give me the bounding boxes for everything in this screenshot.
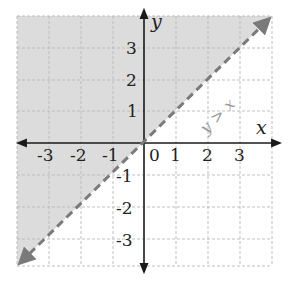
y-axis-label: y: [151, 12, 162, 31]
y-tick-3: 3: [126, 40, 137, 57]
y-tick-2: 2: [126, 72, 137, 89]
x-tick-neg1: -1: [102, 147, 119, 164]
y-tick-neg2: -2: [116, 200, 133, 217]
y-tick-1: 1: [127, 103, 138, 120]
y-tick-neg3: -3: [116, 232, 133, 249]
x-tick-1: 1: [170, 147, 181, 164]
x-tick-neg3: -3: [37, 147, 54, 164]
y-tick-neg1: -1: [116, 168, 133, 185]
origin-label: 0: [149, 147, 160, 164]
x-tick-3: 3: [234, 147, 245, 164]
x-axis-label: x: [256, 118, 267, 137]
x-tick-neg2: -2: [70, 147, 87, 164]
x-tick-2: 2: [202, 147, 213, 164]
coordinate-plane: [0, 0, 288, 282]
